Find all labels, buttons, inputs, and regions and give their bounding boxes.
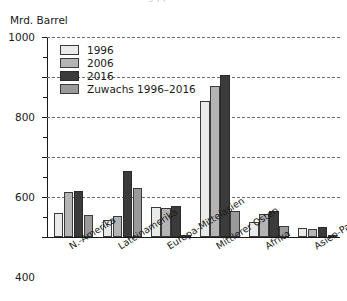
y-tick-label-1000: 1000	[8, 31, 35, 43]
bar-group	[298, 37, 338, 237]
bar	[74, 191, 84, 237]
cut-off-caption-text: g pp	[148, 0, 169, 2]
y-tick-label-600: 600	[15, 191, 35, 203]
bar	[54, 213, 64, 237]
y-tick-major-600: 600	[42, 117, 47, 118]
legend-item-label: 2006	[87, 57, 114, 69]
y-tick-major-0: 0	[42, 237, 47, 238]
legend-swatch-icon	[60, 71, 79, 81]
y-tick-major-1000: 1000	[42, 37, 47, 38]
y-tick-minor-100	[43, 217, 47, 218]
legend-item-label: 2016	[87, 70, 114, 82]
y-tick-major-200: 200	[42, 197, 47, 198]
legend-item-label: Zuwachs 1996–2016	[87, 83, 196, 95]
legend-swatch-icon	[60, 45, 79, 55]
y-tick-minor-700	[43, 97, 47, 98]
y-tick-label-800: 800	[15, 111, 35, 123]
y-axis-title: Mrd. Barrel	[10, 14, 68, 26]
legend-item: 2016	[60, 70, 196, 81]
bar	[298, 228, 308, 237]
y-tick-minor-900	[43, 57, 47, 58]
legend-item-label: 1996	[87, 44, 114, 56]
chart-legend: 199620062016Zuwachs 1996–2016	[60, 44, 196, 94]
legend-item: Zuwachs 1996–2016	[60, 83, 196, 94]
legend-item: 2006	[60, 57, 196, 68]
y-tick-major-800: 800	[42, 77, 47, 78]
bar	[64, 192, 74, 237]
bar-chart: g pp Mrd. Barrel 02004006008001000 N.-Am…	[0, 0, 347, 301]
legend-swatch-icon	[60, 84, 79, 94]
y-tick-label-400: 400	[15, 271, 35, 283]
cut-off-caption-sliver: g pp	[0, 0, 347, 8]
y-tick-major-400: 400	[42, 157, 47, 158]
legend-swatch-icon	[60, 58, 79, 68]
bar	[308, 229, 318, 237]
y-axis-line	[47, 37, 48, 238]
y-tick-minor-500	[43, 137, 47, 138]
legend-item: 1996	[60, 44, 196, 55]
bar	[123, 171, 133, 237]
y-tick-minor-300	[43, 177, 47, 178]
